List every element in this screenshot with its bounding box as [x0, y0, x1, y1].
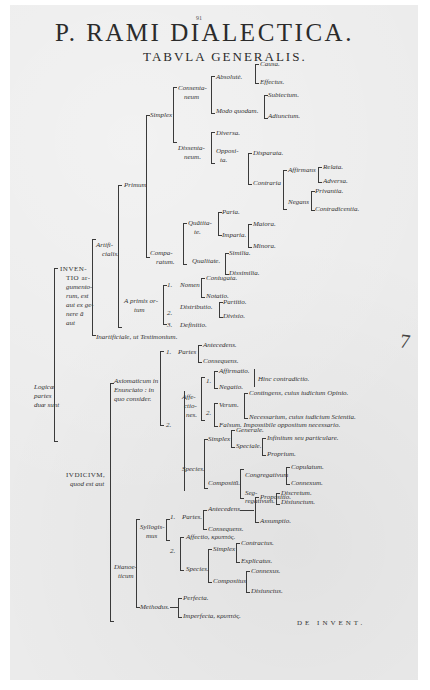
- coniugata: Coniugata.: [206, 274, 237, 282]
- imparia-brace: [248, 224, 252, 248]
- axiomaticum-label-2: Enunciato : in: [114, 386, 154, 394]
- a-primis-ortum-label-1: A primis or-: [124, 297, 158, 305]
- axiomaticum-label-1: Axiomaticum in: [114, 377, 158, 385]
- similia: Similia.: [229, 249, 251, 257]
- dianoeticum-label-2: ticum: [118, 572, 134, 580]
- congregativum-label: Congregativum: [245, 471, 288, 479]
- catchword: DE INVENT.: [297, 619, 365, 627]
- dissentaneum-brace: [211, 132, 215, 164]
- simplex-brace-bottom: [173, 142, 177, 143]
- explicatus: Explicatus.: [241, 557, 272, 565]
- methodus-connector: [170, 607, 178, 608]
- assumptio: Assumptio.: [260, 517, 291, 525]
- ax-simplex-brace: [231, 430, 235, 448]
- partitio: Partitio.: [223, 298, 247, 306]
- affectiones-label-3: nes.: [186, 411, 197, 419]
- nomen-brace: [201, 278, 205, 298]
- axiomaticum-label-3: quo consider.: [114, 395, 151, 403]
- disiunctus: Disiunctus.: [251, 587, 283, 595]
- inventio-line-1: INVEN-: [60, 265, 87, 273]
- syl-antecedens-brace: [255, 497, 259, 523]
- inventio-line-2: TIO ar-: [66, 274, 91, 282]
- divisio: Divisio.: [223, 312, 245, 320]
- definitio-num: 3.: [167, 321, 172, 329]
- syl-partes-brace: [203, 510, 207, 530]
- dianoeticum-brace-top: [136, 519, 140, 520]
- ax-partes-num: 1.: [166, 348, 171, 356]
- infinitum: Infinitum seu particulare.: [267, 434, 338, 442]
- antecedens: Antecedens.: [203, 341, 237, 349]
- inventio-line-5: aut ex ge-: [66, 301, 94, 309]
- dianoeticum-label-1: Dianoe-: [114, 563, 137, 571]
- opposita-label-1: Opposi-: [216, 147, 239, 155]
- syl-compositus-brace: [246, 571, 250, 593]
- page-title: P. RAMI DIALECTICA.: [55, 19, 354, 47]
- syl-antecedens-label: Antecedens.: [208, 505, 242, 513]
- ax-simplex-label: Simplex: [208, 435, 230, 443]
- syl-simplex-label: Simplex: [213, 545, 235, 553]
- axiomaticum-brace-bottom: [160, 425, 164, 426]
- connexum: Connexum.: [291, 479, 323, 487]
- root-brace-top: [54, 268, 58, 269]
- ax-affectiones-species-brace: [184, 391, 185, 491]
- verum-falsum-brace: [214, 403, 218, 427]
- iudicium-brace-bottom: [110, 621, 114, 622]
- contradicentia: Contradicentia.: [315, 205, 359, 213]
- connexus: Connexus.: [251, 567, 280, 575]
- subiectum: Subiectum.: [268, 91, 299, 99]
- syl-compositus-label: Compositus: [213, 577, 246, 585]
- generale: Generale.: [236, 426, 264, 434]
- syl-species-brace: [208, 549, 212, 583]
- root-label: Logicæ partes duæ sunt: [34, 383, 64, 410]
- ax-compositum-brace: [240, 469, 244, 499]
- segregativum-label-1: Seg-: [245, 489, 257, 497]
- relata: Relata.: [323, 163, 343, 171]
- syl-second-brace: [180, 537, 184, 571]
- verum-brace: [244, 393, 248, 419]
- root-brace-bottom: [54, 441, 58, 442]
- verum-label: Verum.: [219, 401, 239, 409]
- quantitate-label-1: Quãtita-: [188, 219, 212, 227]
- dianoeticum-brace: [136, 519, 137, 607]
- affectiones-brace: [201, 377, 205, 421]
- inartificialis-label: Inartificiale, ut Testimonium.: [96, 333, 177, 341]
- affectiones-num: 2.: [166, 421, 171, 429]
- dissentaneum-label-2: neum.: [184, 153, 201, 161]
- inventio-brace-top: [92, 239, 96, 240]
- syl-consequens: Consequens.: [208, 525, 244, 533]
- maiora: Maiora.: [253, 220, 276, 228]
- nomen-label: Nomen: [180, 281, 200, 289]
- definitio-label: Definitio.: [180, 321, 207, 329]
- speciale-brace: [262, 438, 266, 456]
- inventio-line-4: rum, est: [66, 292, 89, 300]
- privantia: Privantia.: [315, 187, 343, 195]
- artificialis-brace-bottom: [118, 327, 122, 328]
- methodus-label: Methodus.: [140, 603, 169, 611]
- iudicium-brace: [110, 383, 111, 621]
- distributio-num: 2.: [167, 309, 172, 317]
- syl-species-label: Species.: [186, 565, 209, 573]
- primum-brace: [146, 115, 147, 257]
- consentaneum-brace: [211, 76, 215, 114]
- contraria-label: Contraria: [253, 179, 281, 187]
- copulatum: Copulatum.: [291, 463, 324, 471]
- affirmatio: Affirmatio.: [219, 367, 250, 375]
- paria: Paria.: [222, 208, 240, 216]
- affirmatio-brace: [214, 371, 218, 389]
- effectus: Effectus.: [260, 78, 284, 86]
- primum-label: Primum: [124, 181, 147, 189]
- disparata: Disparata.: [253, 149, 283, 157]
- primum-brace-bottom: [146, 257, 150, 258]
- minora: Minora.: [253, 242, 276, 250]
- syllogismus-label-2: mus: [146, 532, 157, 540]
- syl-partes-num: 1.: [170, 513, 175, 521]
- affectiones-label-2: ctio-: [184, 402, 197, 410]
- contractus: Contractus.: [241, 539, 274, 547]
- simplex-brace: [173, 87, 174, 142]
- book-page: 91 P. RAMI DIALECTICA. TABVLA GENERALIS.…: [10, 5, 418, 680]
- inventio-line-6: nere ā: [66, 310, 83, 318]
- syl-second-num: 2.: [170, 547, 175, 555]
- affectiones-first-num: 1.: [206, 377, 211, 385]
- methodus-brace: [178, 598, 182, 618]
- dissentaneum-label-1: Dissenta-: [178, 144, 205, 152]
